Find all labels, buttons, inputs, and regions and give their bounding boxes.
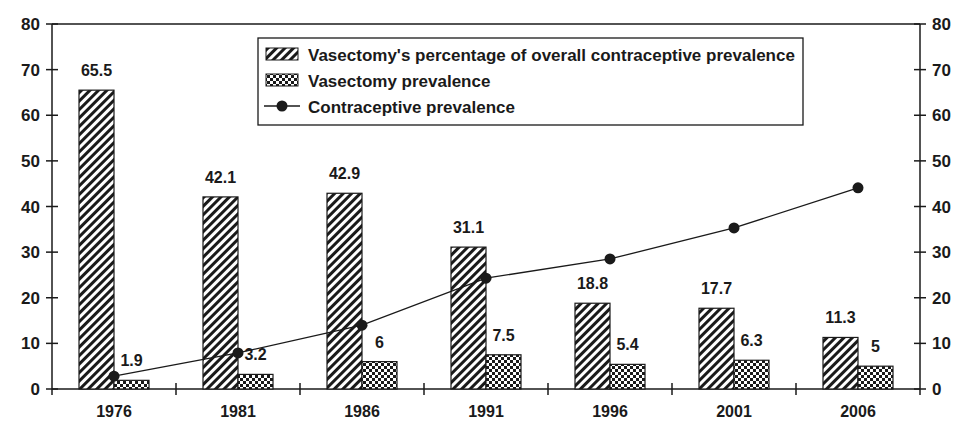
- y-tick-label: 20: [21, 289, 40, 308]
- y-tick-label: 70: [21, 61, 40, 80]
- y2-tick-label: 40: [932, 198, 951, 217]
- legend-label: Vasectomy prevalence: [308, 72, 490, 91]
- bar-value-label: 11.3: [825, 309, 855, 326]
- line-marker: [357, 320, 368, 331]
- x-tick-label: 1986: [344, 403, 380, 420]
- legend-swatch-checker: [266, 74, 298, 86]
- y2-tick-label: 80: [932, 15, 951, 34]
- bar-value-label: 6.3: [740, 332, 762, 349]
- x-tick-label: 2001: [716, 403, 752, 420]
- legend-swatch-hatch: [266, 48, 298, 60]
- bar-value-label: 7.5: [492, 327, 514, 344]
- y2-tick-label: 0: [932, 380, 941, 399]
- bar-value-label: 5.4: [616, 336, 638, 353]
- legend-swatch-marker: [277, 101, 288, 112]
- bar-vasectomy-share: [79, 90, 114, 389]
- bar-value-label: 42.1: [205, 169, 236, 186]
- bar-value-label: 6: [375, 334, 384, 351]
- legend-label: Vasectomy's percentage of overall contra…: [308, 46, 795, 65]
- bar-vasectomy-prevalence: [362, 362, 397, 389]
- bar-vasectomy-share: [575, 303, 610, 389]
- bar-vasectomy-share: [203, 197, 238, 389]
- bar-vasectomy-share: [823, 337, 858, 389]
- x-tick-label: 2006: [840, 403, 876, 420]
- bar-value-label: 5: [871, 338, 880, 355]
- line-marker: [853, 182, 864, 193]
- bar-value-label: 31.1: [453, 219, 484, 236]
- x-tick-label: 1976: [96, 403, 132, 420]
- x-tick-label: 1996: [592, 403, 628, 420]
- line-marker: [729, 222, 740, 233]
- bar-vasectomy-prevalence: [114, 380, 149, 389]
- chart: 0010102020303040405050606070708080197619…: [0, 0, 967, 430]
- y-tick-label: 60: [21, 106, 40, 125]
- legend-label: Contraceptive prevalence: [308, 98, 515, 117]
- y2-tick-label: 70: [932, 61, 951, 80]
- y-tick-label: 40: [21, 198, 40, 217]
- y2-tick-label: 10: [932, 334, 951, 353]
- bar-value-label: 65.5: [81, 62, 112, 79]
- bar-vasectomy-share: [451, 247, 486, 389]
- legend: Vasectomy's percentage of overall contra…: [258, 38, 803, 125]
- y-tick-label: 30: [21, 243, 40, 262]
- bar-value-label: 18.8: [577, 275, 608, 292]
- bar-vasectomy-prevalence: [486, 355, 521, 389]
- x-tick-label: 1991: [468, 403, 504, 420]
- bar-vasectomy-prevalence: [858, 366, 893, 389]
- y2-tick-label: 60: [932, 106, 951, 125]
- bar-vasectomy-share: [327, 193, 362, 389]
- y2-tick-label: 20: [932, 289, 951, 308]
- bar-vasectomy-prevalence: [238, 374, 273, 389]
- line-marker: [605, 253, 616, 264]
- bar-vasectomy-share: [699, 308, 734, 389]
- y-tick-label: 10: [21, 334, 40, 353]
- line-marker: [109, 371, 120, 382]
- bar-vasectomy-prevalence: [610, 364, 645, 389]
- bar-value-label: 17.7: [701, 280, 732, 297]
- x-tick-label: 1981: [220, 403, 256, 420]
- y2-tick-label: 30: [932, 243, 951, 262]
- bar-value-label: 42.9: [329, 165, 360, 182]
- line-marker: [481, 273, 492, 284]
- y-tick-label: 0: [31, 380, 40, 399]
- y-tick-label: 80: [21, 15, 40, 34]
- bar-value-label: 1.9: [120, 352, 142, 369]
- y2-tick-label: 50: [932, 152, 951, 171]
- y-tick-label: 50: [21, 152, 40, 171]
- bar-vasectomy-prevalence: [734, 360, 769, 389]
- line-marker: [233, 347, 244, 358]
